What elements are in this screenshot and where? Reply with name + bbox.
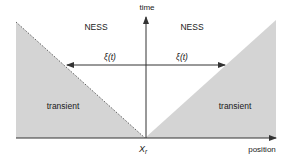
front-label-right: ξ(t) [176,52,188,62]
transient-label-right: transient [219,101,252,111]
ness-label-left: NESS [84,22,107,32]
front-label-left: ξ(t) [104,52,116,62]
time-axis-label: time [139,3,155,12]
origin-label-subscript: r [145,148,148,155]
transient-region-right [145,20,276,138]
position-axis-label: position [248,145,276,154]
ness-label-right: NESS [180,22,203,32]
diagram-canvas: time position NESS NESS transient transi… [0,0,289,158]
origin-label: Xr [138,144,148,155]
transient-label-left: transient [47,101,80,111]
